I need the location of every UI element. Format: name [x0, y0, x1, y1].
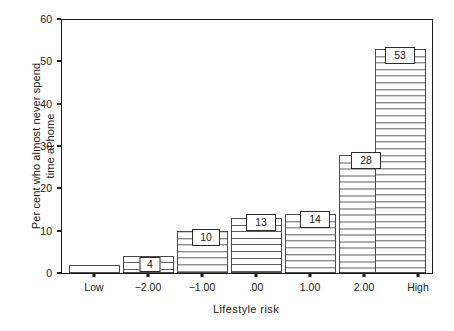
x-tick-label-zero: .00: [249, 282, 264, 293]
x-tick-label-minus-2: −2.00: [135, 282, 162, 293]
plot-frame-right: [432, 19, 433, 274]
y-tick-label-60: 60: [26, 14, 52, 24]
x-axis-title: Lifestyle risk: [213, 303, 279, 315]
x-axis-line: [61, 273, 433, 274]
bar-value-minus-1: 10: [192, 229, 220, 246]
bar-value-minus-2: 4: [140, 257, 161, 272]
x-tick-mark-minus-2: [147, 274, 150, 277]
bar-low: [69, 265, 120, 274]
y-tick-label-20: 20: [26, 183, 52, 193]
plot-frame-top: [61, 19, 433, 20]
y-axis-line: [61, 19, 62, 274]
y-tick-label-30: 30: [26, 141, 52, 151]
bar-chart-figure: Per cent who almost never spend time at …: [0, 0, 454, 331]
y-tick-label-0: 0: [26, 268, 52, 278]
x-tick-label-low: Low: [84, 282, 103, 293]
bar-value-high: 53: [385, 47, 415, 64]
x-tick-mark-plus-1: [309, 274, 312, 277]
x-tick-mark-plus-2: [363, 274, 366, 277]
x-tick-label-plus-1: 1.00: [300, 282, 320, 293]
bar-value-plus-1: 14: [300, 211, 330, 228]
y-tick-label-40: 40: [26, 99, 52, 109]
x-tick-mark-zero: [255, 274, 258, 277]
bar-value-zero: 13: [246, 214, 276, 231]
y-tick-label-10: 10: [26, 226, 52, 236]
x-tick-label-plus-2: 2.00: [354, 282, 374, 293]
x-tick-label-minus-1: −1.00: [189, 282, 216, 293]
x-tick-mark-high: [417, 274, 420, 277]
x-tick-mark-minus-1: [201, 274, 204, 277]
bar-value-plus-2: 28: [351, 152, 381, 169]
bar-high: [375, 49, 426, 273]
y-tick-label-50: 50: [26, 56, 52, 66]
x-tick-mark-low: [93, 274, 96, 277]
x-tick-label-high: High: [407, 282, 429, 293]
